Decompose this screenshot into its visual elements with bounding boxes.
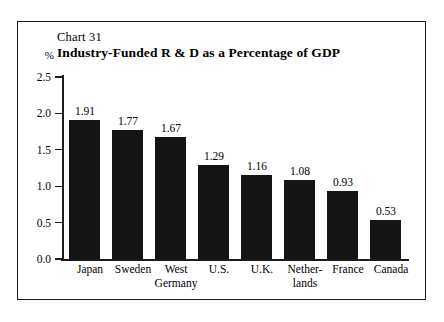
bar-slot: 1.08	[283, 77, 326, 259]
x-axis-category-labels: JapanSwedenWestGermanyU.S.U.K.Nether-lan…	[68, 263, 418, 303]
bar	[370, 220, 401, 259]
bar-slot: 1.67	[154, 77, 197, 259]
y-axis-unit-label: %	[32, 49, 54, 61]
bar-value-label: 1.67	[154, 122, 188, 135]
bar-slot: 0.93	[326, 77, 369, 259]
x-axis-category-label-line: Germany	[151, 277, 201, 291]
bar-value-label: 1.91	[68, 105, 102, 118]
chart-title: Industry-Funded R & D as a Percentage of…	[57, 45, 340, 61]
bar	[284, 180, 315, 259]
y-axis-tick-label: 0.5	[37, 217, 51, 229]
chart-figure-frame: Chart 31 Industry-Funded R & D as a Perc…	[17, 21, 426, 300]
bar-value-label: 1.16	[240, 160, 274, 173]
bar	[112, 130, 143, 259]
bar-series: 1.911.771.671.291.161.080.930.53	[68, 77, 412, 259]
bar-value-label: 1.08	[283, 165, 317, 178]
y-axis-tick: 2.5	[55, 76, 62, 77]
bar	[198, 165, 229, 259]
x-axis-category-label-line: Canada	[366, 263, 416, 277]
plot-area: 0.00.51.01.52.02.5 1.911.771.671.291.161…	[62, 77, 412, 259]
y-axis-tick: 1.0	[55, 186, 62, 187]
y-axis-tick-label: 1.0	[37, 180, 51, 192]
y-axis-tick: 1.5	[55, 149, 62, 150]
bar	[155, 137, 186, 259]
y-axis-tick-label: 2.0	[37, 107, 51, 119]
bar	[327, 191, 358, 259]
bar-value-label: 0.53	[369, 205, 403, 218]
x-axis-category-label-line: lands	[280, 277, 330, 291]
bar-slot: 1.91	[68, 77, 111, 259]
bar-slot: 1.77	[111, 77, 154, 259]
bar-value-label: 1.29	[197, 150, 231, 163]
bar-value-label: 0.93	[326, 176, 360, 189]
y-axis-tick-label: 1.5	[37, 144, 51, 156]
bar-slot: 1.29	[197, 77, 240, 259]
y-axis-tick: 2.0	[55, 113, 62, 114]
y-axis-tick: 0.0	[55, 258, 62, 259]
bar-value-label: 1.77	[111, 115, 145, 128]
bar	[241, 175, 272, 259]
x-axis-category-label: Canada	[366, 263, 416, 277]
bar-slot: 1.16	[240, 77, 283, 259]
y-axis-line	[62, 75, 64, 261]
y-axis-tick-label: 0.0	[37, 253, 51, 265]
x-axis-line	[61, 259, 409, 261]
bar	[69, 120, 100, 259]
y-axis-tick-label: 2.5	[37, 71, 51, 83]
y-axis-tick: 0.5	[55, 222, 62, 223]
bar-slot: 0.53	[369, 77, 412, 259]
chart-number-label: Chart 31	[57, 30, 102, 44]
